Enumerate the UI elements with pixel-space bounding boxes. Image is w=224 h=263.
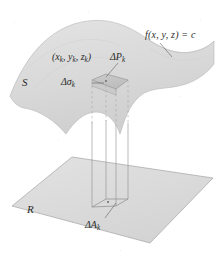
label-delta-a: ΔAk xyxy=(85,220,100,232)
label-delta-p-sub: k xyxy=(122,56,125,64)
label-sample-point-open: (x xyxy=(52,51,60,62)
label-delta-p-main: ΔP xyxy=(110,51,122,62)
label-delta-sigma-main: Δσ xyxy=(61,76,72,87)
label-delta-sigma-sub: k xyxy=(72,81,75,89)
label-sample-point: (xk, yk, zk) xyxy=(52,52,91,64)
label-sample-point-mid-z: , z xyxy=(76,51,85,62)
label-region-r: R xyxy=(27,204,34,215)
label-delta-sigma: Δσk xyxy=(61,77,75,89)
region-plane xyxy=(12,157,213,243)
surface-integral-figure: f(x, y, z) = c (xk, yk, zk) ΔPk Δσk S R … xyxy=(0,0,224,263)
label-delta-a-sub: k xyxy=(97,224,100,232)
label-level-set: f(x, y, z) = c xyxy=(145,30,196,40)
plane-patch-center-dot xyxy=(107,201,109,203)
label-sample-point-close: ) xyxy=(88,51,91,62)
label-surface-s: S xyxy=(22,77,28,88)
label-delta-p: ΔPk xyxy=(110,52,125,64)
region-plane-group xyxy=(12,157,213,243)
label-delta-a-main: ΔA xyxy=(85,219,97,230)
